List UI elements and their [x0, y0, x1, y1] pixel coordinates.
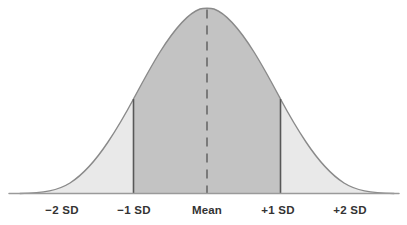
axis-tick-label-minus-2sd: −2 SD	[45, 203, 78, 217]
bell-curve-plot	[0, 0, 407, 225]
normal-distribution-figure: −2 SD −1 SD Mean +1 SD +2 SD	[0, 0, 407, 225]
right-tail-shaded-region	[281, 99, 395, 194]
within-one-sd-shaded-region	[134, 8, 281, 193]
axis-tick-label-plus-1sd: +1 SD	[261, 203, 294, 217]
axis-tick-label-plus-2sd: +2 SD	[333, 203, 366, 217]
axis-tick-label-minus-1sd: −1 SD	[117, 203, 150, 217]
left-tail-shaded-region	[20, 99, 134, 194]
axis-tick-label-mean: Mean	[192, 203, 222, 217]
